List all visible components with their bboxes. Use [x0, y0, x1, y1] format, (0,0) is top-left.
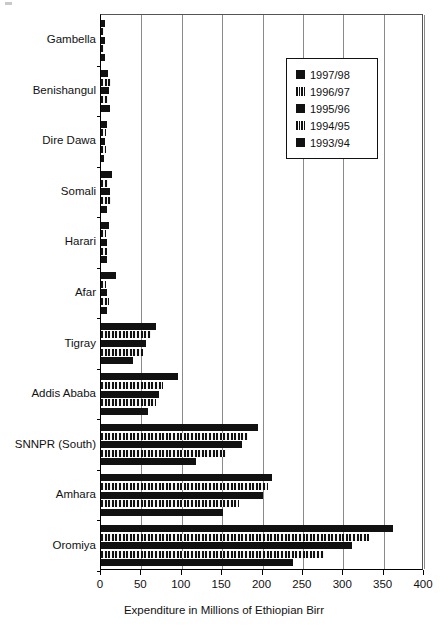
category-label-somali: Somali — [0, 185, 104, 197]
category-label-benishangul: Benishangul — [0, 84, 104, 96]
category-axis-labels: GambellaBenishangulDire DawaSomaliHarari… — [0, 0, 448, 635]
legend-item[interactable]: 1993/94 — [287, 134, 377, 151]
category-label-amhara: Amhara — [0, 488, 104, 500]
legend-swatch-icon — [296, 121, 305, 130]
legend-label: 1995/96 — [310, 103, 350, 115]
legend-item[interactable]: 1995/96 — [287, 100, 377, 117]
x-tick-label-50: 50 — [120, 578, 160, 590]
x-tick-label-350: 350 — [363, 578, 403, 590]
x-tick-300 — [342, 570, 343, 575]
category-label-harari: Harari — [0, 235, 104, 247]
category-label-tigray: Tigray — [0, 337, 104, 349]
x-tick-350 — [383, 570, 384, 575]
legend-item[interactable]: 1994/95 — [287, 117, 377, 134]
legend-label: 1993/94 — [310, 137, 350, 149]
legend: 1997/981996/971995/961994/951993/94 — [286, 58, 378, 159]
x-tick-label-250: 250 — [282, 578, 322, 590]
x-tick-label-150: 150 — [201, 578, 241, 590]
x-tick-0 — [100, 570, 101, 575]
x-tick-250 — [302, 570, 303, 575]
x-tick-400 — [423, 570, 424, 575]
legend-swatch-icon — [296, 138, 305, 147]
legend-swatch-icon — [296, 70, 305, 79]
category-label-dire-dawa: Dire Dawa — [0, 134, 104, 146]
x-tick-200 — [262, 570, 263, 575]
x-tick-label-400: 400 — [403, 578, 443, 590]
legend-swatch-icon — [296, 87, 305, 96]
x-tick-150 — [221, 570, 222, 575]
x-tick-50 — [140, 570, 141, 575]
legend-label: 1994/95 — [310, 120, 350, 132]
legend-swatch-icon — [296, 104, 305, 113]
category-label-snnpr-south: SNNPR (South) — [0, 438, 104, 450]
legend-item[interactable]: 1996/97 — [287, 83, 377, 100]
x-tick-label-300: 300 — [322, 578, 362, 590]
category-label-afar: Afar — [0, 286, 104, 298]
category-label-addis-ababa: Addis Ababa — [0, 387, 104, 399]
bar-chart: GambellaBenishangulDire DawaSomaliHarari… — [0, 0, 448, 635]
legend-label: 1997/98 — [310, 69, 350, 81]
category-label-gambella: Gambella — [0, 33, 104, 45]
x-tick-label-0: 0 — [80, 578, 120, 590]
x-tick-100 — [181, 570, 182, 575]
x-tick-label-200: 200 — [242, 578, 282, 590]
category-label-oromiya: Oromiya — [0, 539, 104, 551]
legend-item[interactable]: 1997/98 — [287, 66, 377, 83]
x-axis-title: Expenditure in Millions of Ethiopian Bir… — [0, 604, 448, 616]
x-tick-label-100: 100 — [161, 578, 201, 590]
legend-label: 1996/97 — [310, 86, 350, 98]
